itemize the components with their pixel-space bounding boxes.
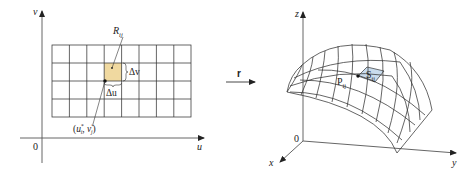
parametric-surface xyxy=(287,44,432,153)
xyz-space: z x y 0 Pij xyxy=(268,8,457,168)
v-axis-label: v xyxy=(33,6,38,17)
y-axis xyxy=(303,141,456,153)
delta-v-label: Δv xyxy=(129,67,140,77)
y-axis-label: y xyxy=(451,157,457,168)
sample-point-pointer xyxy=(93,81,105,124)
origin-3d-label: 0 xyxy=(294,133,299,144)
mapping-arrow: r xyxy=(226,68,255,82)
r-ij-label: Rij xyxy=(112,25,123,38)
parametric-surface-diagram: v u 0 Rij Δv Δu (u xyxy=(0,0,475,178)
p-ij-label: Pij xyxy=(337,76,346,89)
delta-u-label: Δu xyxy=(106,88,117,98)
z-axis-label: z xyxy=(294,8,299,19)
x-axis-label: x xyxy=(268,157,274,168)
delta-v-brace xyxy=(123,63,128,81)
u-axis-label: u xyxy=(197,141,202,152)
delta-u-brace xyxy=(104,83,121,87)
sample-point-label: (u*i, v*j) xyxy=(73,123,96,135)
partition-grid xyxy=(52,45,191,117)
mapping-label: r xyxy=(237,68,241,79)
origin-label: 0 xyxy=(33,141,38,152)
uv-plane: v u 0 Rij Δv Δu (u xyxy=(20,6,204,163)
x-axis xyxy=(280,141,303,162)
point-p-ij xyxy=(356,74,359,77)
